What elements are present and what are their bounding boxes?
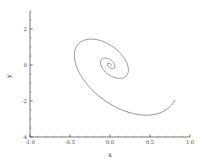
spiral-curve xyxy=(74,39,175,115)
y-tick-label: 0 xyxy=(24,62,27,68)
spiral-chart: -1.0-0.50.00.51.0-4-202 x y xyxy=(0,0,206,164)
x-tick-label: 0.5 xyxy=(146,139,154,145)
x-tick-label: 0.0 xyxy=(106,139,114,145)
y-tick-label: -4 xyxy=(22,134,27,140)
y-tick-label: -2 xyxy=(22,98,27,104)
x-tick-label: 1.0 xyxy=(186,139,194,145)
y-axis-label: y xyxy=(5,74,13,79)
x-axis-label: x xyxy=(108,151,112,159)
axes: -1.0-0.50.00.51.0-4-202 xyxy=(22,11,194,145)
y-tick-label: 2 xyxy=(24,26,27,32)
x-tick-label: -0.5 xyxy=(65,139,75,145)
